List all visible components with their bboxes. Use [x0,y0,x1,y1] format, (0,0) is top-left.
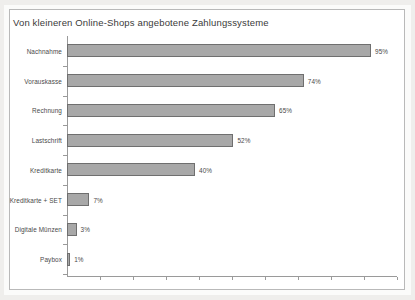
bar-value-label: 52% [237,137,250,144]
value-axis-tick [331,277,332,280]
bar-category-label: Digitale Münzen [15,226,62,233]
bar [67,134,233,147]
value-axis-tick [199,277,200,280]
chart-title: Von kleineren Online-Shops angebotene Za… [13,17,269,28]
bar-value-label: 1% [74,256,83,263]
bar [67,44,371,57]
bar-category-label: Kreditkarte [30,166,62,173]
scan-edge-bottom [0,295,415,300]
bar [67,74,304,87]
bar-category-label: Vorauskasse [24,77,62,84]
value-axis-tick [397,277,398,280]
plot-area: Nachnahme95%Vorauskasse74%Rechnung65%Las… [67,36,387,274]
bar-category-label: Nachnahme [27,47,62,54]
value-axis-tick [100,277,101,280]
bar-row: Paybox1% [67,253,387,266]
scan-edge-top [0,0,415,5]
bar [67,193,89,206]
value-axis-tick [232,277,233,280]
bar [67,104,275,117]
value-axis-tick [364,277,365,280]
bar-row: Vorauskasse74% [67,74,387,87]
bar [67,163,195,176]
bar-row: Lastschrift52% [67,134,387,147]
value-axis-tick [133,277,134,280]
bar-value-label: 7% [93,196,102,203]
scan-edge-right [411,0,415,300]
bar-row: Nachnahme95% [67,44,387,57]
bar-row: Rechnung65% [67,104,387,117]
bar [67,223,77,236]
category-axis-tick [63,274,67,275]
bar-row: Digitale Münzen3% [67,223,387,236]
bar-category-label: Rechnung [32,107,62,114]
bar [67,253,70,266]
value-axis-tick [166,277,167,280]
bar-category-label: Paybox [40,256,62,263]
bar-category-label: Lastschrift [32,137,62,144]
scanned-page: Von kleineren Online-Shops angebotene Za… [0,0,415,300]
scan-edge-left [0,0,4,300]
value-axis-tick [265,277,266,280]
bar-row: Kreditkarte40% [67,163,387,176]
bar-value-label: 95% [375,47,388,54]
bar-value-label: 65% [279,107,292,114]
bar-category-label: Kreditkarte + SET [10,196,62,203]
bar-value-label: 74% [308,77,321,84]
bar-row: Kreditkarte + SET7% [67,193,387,206]
bar-value-label: 3% [81,226,90,233]
bar-value-label: 40% [199,166,212,173]
value-axis-tick [298,277,299,280]
